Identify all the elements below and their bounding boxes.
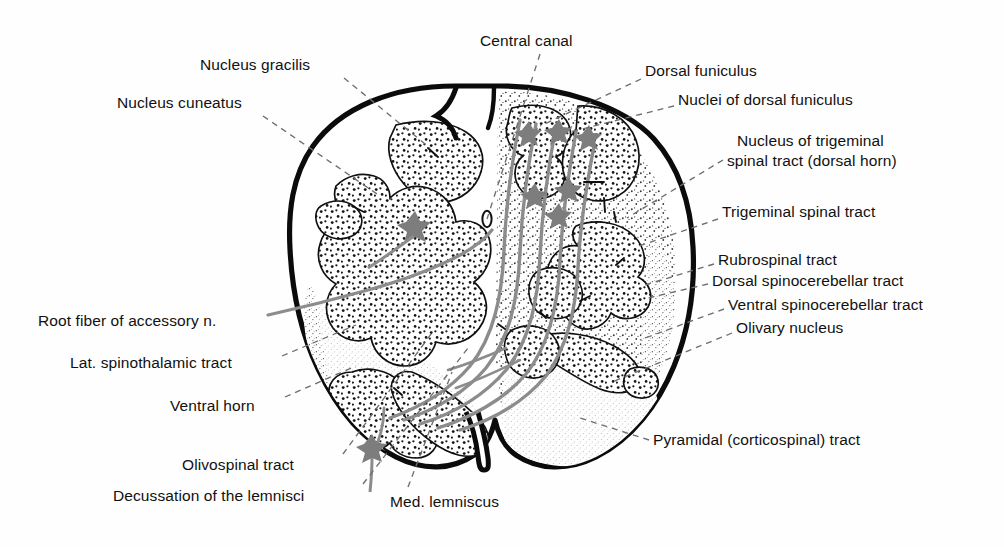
label-decussation-of-the-lemnisci: Decussation of the lemnisci xyxy=(113,488,304,504)
label-central-canal: Central canal xyxy=(480,33,573,49)
label-root-fiber-of-accessory-n: Root fiber of accessory n. xyxy=(38,313,216,329)
label-nucleus-of-trigeminal-spinal-tract-line1: Nucleus of trigeminal xyxy=(737,133,884,149)
label-ventral-spinocerebellar-tract: Ventral spinocerebellar tract xyxy=(728,297,923,313)
label-pyramidal-corticospinal-tract: Pyramidal (corticospinal) tract xyxy=(653,432,860,448)
label-trigeminal-spinal-tract: Trigeminal spinal tract xyxy=(722,204,875,220)
label-nucleus-cuneatus: Nucleus cuneatus xyxy=(117,95,242,111)
label-rubrospinal-tract: Rubrospinal tract xyxy=(718,252,837,268)
anatomical-figure: Nucleus gracilis Nucleus cuneatus Centra… xyxy=(0,0,1004,547)
label-olivary-nucleus: Olivary nucleus xyxy=(736,320,843,336)
label-lat-spinothalamic-tract: Lat. spinothalamic tract xyxy=(70,355,232,371)
label-nucleus-gracilis: Nucleus gracilis xyxy=(200,57,310,73)
label-olivospinal-tract: Olivospinal tract xyxy=(182,457,294,473)
label-nuclei-of-dorsal-funiculus: Nuclei of dorsal funiculus xyxy=(678,92,853,108)
label-ventral-horn: Ventral horn xyxy=(170,398,255,414)
label-dorsal-funiculus: Dorsal funiculus xyxy=(645,63,757,79)
label-dorsal-spinocerebellar-tract: Dorsal spinocerebellar tract xyxy=(712,273,903,289)
label-med-lemniscus: Med. lemniscus xyxy=(390,494,499,510)
label-nucleus-of-trigeminal-spinal-tract-line2: spinal tract (dorsal horn) xyxy=(727,153,897,169)
